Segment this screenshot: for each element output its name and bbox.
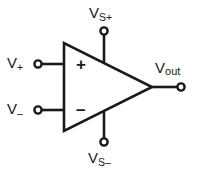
noninverting-input-terminal[interactable] [34,60,41,67]
opamp-schematic-svg [0,0,202,174]
label-v-supply-plus: VS+ [89,5,112,20]
label-v-supply-plus-base: V [89,4,99,21]
label-v-supply-minus: VS– [88,150,111,165]
label-v-out: Vout [155,60,180,75]
opamp-schematic-figure: V+ V– VS+ VS– Vout + – [0,0,202,174]
output-terminal[interactable] [177,83,184,90]
label-v-out-base: V [155,59,165,76]
label-v-plus-base: V [7,54,17,71]
label-v-minus-base: V [7,100,17,117]
negative-supply-terminal[interactable] [100,138,107,145]
label-v-minus: V– [7,101,23,116]
label-v-plus: V+ [7,55,23,70]
inverting-input-terminal[interactable] [34,106,41,113]
label-v-out-sub: out [165,65,180,77]
label-v-minus-sub: – [17,107,23,119]
label-v-supply-minus-base: V [88,149,98,166]
positive-supply-terminal[interactable] [100,27,107,34]
label-v-supply-plus-sub: S+ [99,11,112,23]
label-v-plus-sub: + [17,61,23,73]
label-v-supply-minus-sub: S– [98,156,111,168]
noninverting-plus-symbol: + [76,56,86,73]
inverting-minus-symbol: – [76,101,85,118]
